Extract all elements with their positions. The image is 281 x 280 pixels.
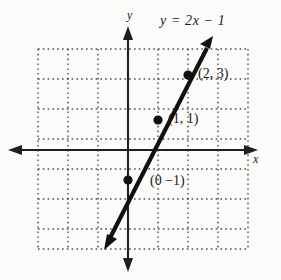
- equation-label: y = 2x − 1: [160, 13, 225, 29]
- y-axis-label: y: [127, 8, 132, 23]
- y-axis-up-arrowhead: [123, 26, 133, 40]
- x-axis: [8, 145, 258, 155]
- y-axis-down-arrowhead: [123, 258, 133, 272]
- point-label-2-3: (2, 3): [198, 66, 228, 82]
- graph-figure: y = 2x − 1 y x (0 −1) (1, 1) (2, 3): [0, 0, 281, 280]
- point-marker-1-1: [153, 115, 162, 124]
- coordinate-plane-svg: [0, 0, 281, 280]
- x-axis-left-arrowhead: [8, 145, 22, 155]
- point-label-1-1: (1, 1): [168, 111, 198, 127]
- x-axis-label: x: [253, 152, 258, 167]
- point-marker-0-neg1: [123, 175, 132, 184]
- point-label-0-neg1: (0 −1): [150, 173, 185, 189]
- line-upper-arrowhead: [200, 36, 213, 49]
- line-lower-arrowhead: [104, 234, 117, 250]
- point-marker-2-3: [183, 70, 192, 79]
